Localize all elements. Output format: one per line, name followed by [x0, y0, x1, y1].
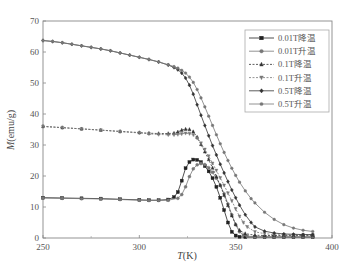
data-point-marker — [230, 167, 233, 170]
data-point-marker — [176, 197, 179, 200]
data-point-marker — [219, 196, 222, 199]
data-point-marker — [223, 151, 226, 154]
y-tick-label: 10 — [30, 202, 40, 212]
data-point-marker — [207, 170, 210, 173]
y-axis-title: M(emu/g) — [5, 110, 17, 151]
y-tick-label: 40 — [30, 109, 40, 119]
data-point-marker — [192, 167, 195, 170]
data-point-marker — [99, 48, 102, 51]
data-point-marker — [184, 167, 187, 170]
x-tick-label: 400 — [325, 242, 339, 252]
data-point-marker — [238, 181, 241, 184]
data-point-marker — [219, 142, 222, 145]
data-point-marker — [292, 227, 295, 230]
data-point-marker — [238, 235, 241, 238]
data-point-marker — [200, 97, 203, 100]
data-point-marker — [157, 199, 160, 202]
data-point-marker — [254, 202, 257, 205]
x-tick-label: 350 — [229, 242, 243, 252]
data-point-marker — [302, 229, 305, 232]
data-point-marker — [167, 199, 170, 202]
data-point-marker — [250, 197, 253, 200]
data-point-marker — [215, 185, 218, 188]
data-point-marker — [234, 174, 237, 177]
data-point-marker — [138, 199, 141, 202]
data-point-marker — [215, 133, 218, 136]
data-point-marker — [119, 198, 122, 201]
data-point-marker — [99, 197, 102, 200]
data-point-marker — [71, 43, 74, 46]
data-point-marker — [196, 88, 199, 91]
data-point-marker — [61, 41, 64, 44]
data-point-marker — [42, 39, 45, 42]
data-point-marker — [263, 211, 266, 214]
y-tick-label: 50 — [30, 78, 40, 88]
legend-label: 0.5T升温 — [278, 99, 312, 109]
data-point-marker — [90, 46, 93, 49]
data-point-marker — [184, 72, 187, 75]
data-point-marker — [230, 230, 233, 233]
data-point-marker — [109, 49, 112, 52]
data-point-marker — [196, 163, 199, 166]
legend-label: 0.01T降温 — [278, 33, 316, 43]
data-point-marker — [184, 185, 187, 188]
data-point-marker — [223, 209, 226, 212]
data-point-marker — [157, 61, 160, 64]
data-point-marker — [199, 162, 202, 165]
data-point-marker — [80, 197, 83, 200]
data-point-marker — [211, 124, 214, 127]
data-point-marker — [260, 36, 264, 40]
data-point-marker — [61, 197, 64, 200]
y-tick-label: 70 — [30, 16, 40, 26]
data-point-marker — [180, 179, 183, 182]
data-point-marker — [226, 221, 229, 224]
magnetization-chart: 010203040506070 250300350400 T(K) M(emu/… — [0, 0, 355, 279]
x-tick-label: 300 — [133, 242, 147, 252]
data-point-marker — [176, 191, 179, 194]
data-point-marker — [260, 49, 264, 53]
data-point-marker — [80, 44, 83, 47]
data-point-marker — [207, 166, 210, 169]
data-point-marker — [173, 196, 176, 199]
data-point-marker — [188, 175, 191, 178]
data-point-marker — [147, 199, 150, 202]
legend-label: 0.1T升温 — [278, 73, 312, 83]
data-point-marker — [234, 234, 237, 237]
data-point-marker — [180, 193, 183, 196]
legend-label: 0.1T降温 — [278, 59, 312, 69]
data-point-marker — [119, 52, 122, 55]
y-tick-label: 60 — [30, 47, 40, 57]
data-point-marker — [260, 102, 263, 105]
x-tick-label: 250 — [36, 242, 50, 252]
data-point-marker — [128, 54, 131, 57]
data-point-marker — [207, 115, 210, 118]
data-point-marker — [227, 159, 230, 162]
data-point-marker — [188, 76, 191, 79]
y-tick-label: 30 — [30, 140, 40, 150]
data-point-marker — [273, 218, 276, 221]
data-point-marker — [138, 56, 141, 59]
y-tick-label: 20 — [30, 171, 40, 181]
data-point-marker — [51, 40, 54, 43]
legend-label: 0.01T升温 — [278, 46, 316, 56]
data-point-marker — [196, 158, 199, 161]
data-point-marker — [148, 58, 151, 61]
data-point-marker — [311, 230, 314, 233]
data-point-marker — [42, 197, 45, 200]
data-point-marker — [203, 163, 206, 166]
data-point-marker — [282, 223, 285, 226]
data-point-marker — [188, 161, 191, 164]
data-point-marker — [167, 63, 170, 66]
x-axis-title: T(K) — [177, 250, 196, 262]
data-point-marker — [244, 190, 247, 193]
data-point-marker — [211, 177, 214, 180]
data-point-marker — [173, 65, 176, 68]
legend: 0.01T降温0.01T升温0.1T降温0.1T升温0.5T降温0.5T升温 — [245, 30, 329, 112]
data-point-marker — [203, 106, 206, 109]
legend-label: 0.5T降温 — [278, 86, 312, 96]
data-point-marker — [177, 67, 180, 70]
data-point-marker — [180, 69, 183, 72]
data-point-marker — [192, 81, 195, 84]
data-point-marker — [192, 158, 195, 161]
